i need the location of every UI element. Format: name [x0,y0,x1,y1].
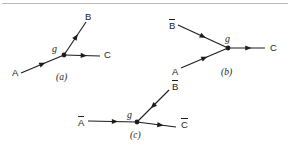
particle-label-glyph: B [172,82,178,92]
particle-label-Bbar: B [172,80,178,92]
interaction-vertex-dot [135,120,140,125]
particle-label-glyph: A [78,118,84,128]
arrowhead-C [81,53,87,58]
particle-label-B: B [85,12,91,22]
particle-label-A: A [12,68,18,78]
particle-label-glyph: A [12,68,18,78]
particle-label-C: C [270,43,277,53]
arrowhead-C [245,45,251,50]
particle-label-Cbar: C [181,118,188,130]
diagram-b [178,25,265,68]
particle-line-Cbar [137,122,176,127]
interaction-vertex-dot [226,46,231,51]
interaction-vertex-dot [62,53,67,58]
arrowhead-Cbar [157,122,163,127]
particle-label-Bbar: B [169,19,175,31]
particle-label-Abar: A [78,116,84,128]
particle-label-glyph: C [104,50,111,60]
particle-label-glyph: C [181,120,188,130]
particle-label-C: C [104,50,111,60]
particle-label-glyph: B [85,12,91,22]
particle-label-glyph: A [172,67,178,77]
diagram-caption: (c) [130,131,141,141]
feynman-vertex-figure: ABCg(a)BACg(b)ABCg(c) [0,0,290,148]
arrowhead-A [39,63,46,68]
diagram-caption: (a) [56,73,67,83]
arrowhead-Abar [112,119,118,124]
particle-label-glyph: C [270,43,277,53]
coupling-constant-label: g [127,110,132,120]
particle-label-glyph: B [169,21,175,31]
diagram-caption: (b) [221,68,232,78]
arrowhead-B [72,34,78,41]
diagram-lines-layer [0,0,290,148]
coupling-constant-label: g [52,44,57,54]
coupling-constant-label: g [225,34,230,44]
particle-label-A: A [172,67,178,77]
diagram-c [88,90,176,127]
diagram-a [21,22,100,73]
